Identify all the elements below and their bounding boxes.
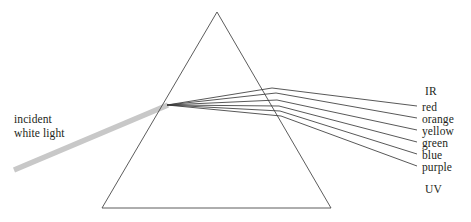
diagram-canvas <box>0 0 471 222</box>
spectrum-label-purple: purple <box>422 161 452 174</box>
incident-label-line1: incident <box>14 113 52 125</box>
emergent-ray-green <box>279 106 417 142</box>
emergent-rays <box>272 88 417 166</box>
prism-dispersion-figure: incidentwhite light IR red orange yellow… <box>0 0 471 222</box>
emergent-ray-yellow <box>277 100 417 130</box>
spectrum-label-uv: UV <box>425 183 442 196</box>
spectrum-label-ir: IR <box>425 85 437 98</box>
emergent-ray-purple <box>281 116 417 166</box>
emergent-ray-orange <box>276 93 417 118</box>
incident-white-light-label: incidentwhite light <box>14 112 65 140</box>
incident-label-line2: white light <box>14 127 65 139</box>
emergent-ray-blue <box>280 111 417 154</box>
internal-ray-red <box>167 93 276 105</box>
